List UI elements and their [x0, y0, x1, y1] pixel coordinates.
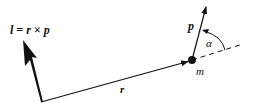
- r-label: r: [120, 84, 124, 95]
- mass-point-dot: [188, 56, 196, 64]
- l-vector-thick-arrow: [23, 40, 43, 102]
- r-vector-arrow: [41, 62, 188, 103]
- alpha-arc-arrowhead: [202, 29, 209, 34]
- angular-momentum-label: l = r × p: [10, 24, 50, 36]
- angular-momentum-diagram: l = r × p r p m α: [0, 0, 257, 111]
- p-label: p: [188, 20, 194, 32]
- alpha-label: α: [206, 38, 212, 49]
- mass-label: m: [196, 66, 204, 77]
- p-vector-arrow: [192, 7, 206, 60]
- r-extension-dashed-line: [192, 44, 243, 60]
- diagram-graphics: [0, 0, 257, 111]
